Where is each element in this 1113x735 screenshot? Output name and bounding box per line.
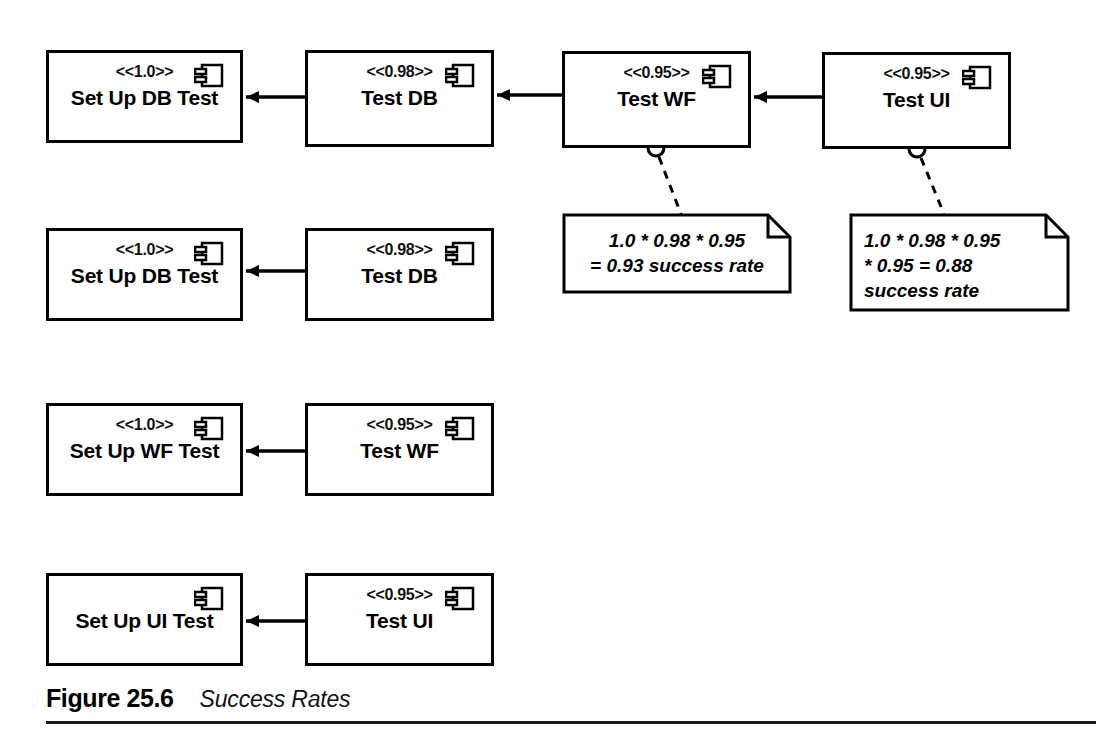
figure-title: Success Rates: [200, 686, 351, 712]
component-name: Set Up UI Test: [49, 609, 240, 633]
component-set-up-ui-test-row4[interactable]: Set Up UI Test: [46, 573, 243, 666]
component-name: Test DB: [308, 86, 491, 110]
uml-component-icon: [445, 241, 475, 267]
uml-component-icon: [445, 586, 475, 612]
note-link-dashed-ui: [921, 158, 944, 214]
figure-label: Figure 25.6: [46, 684, 174, 712]
note-text-wf: 1.0 * 0.98 * 0.95 = 0.93 success rate: [564, 228, 790, 278]
uml-component-icon: [194, 63, 224, 89]
component-name: Set Up DB Test: [49, 86, 240, 110]
uml-component-icon: [445, 416, 475, 442]
component-name: Test UI: [308, 609, 491, 633]
component-name: Test UI: [825, 88, 1008, 112]
component-set-up-wf-test-row3[interactable]: <<1.0>> Set Up WF Test: [46, 403, 243, 496]
component-name: Test WF: [565, 87, 748, 111]
uml-component-icon: [194, 241, 224, 267]
component-name: Set Up DB Test: [49, 264, 240, 288]
component-test-db-row1[interactable]: <<0.98>> Test DB: [305, 50, 494, 147]
component-test-ui-row1[interactable]: <<0.95>> Test UI: [822, 52, 1011, 149]
component-set-up-db-test-row2[interactable]: <<1.0>> Set Up DB Test: [46, 228, 243, 321]
component-name: Test WF: [308, 439, 491, 463]
uml-component-icon: [702, 64, 732, 90]
figure-caption: Figure 25.6Success Rates: [46, 684, 350, 713]
note-link-dashed-wf: [659, 157, 681, 214]
component-name: Test DB: [308, 264, 491, 288]
component-name: Set Up WF Test: [49, 439, 240, 463]
component-set-up-db-test-row1[interactable]: <<1.0>> Set Up DB Test: [46, 50, 243, 143]
component-test-db-row2[interactable]: <<0.98>> Test DB: [305, 228, 494, 321]
component-test-wf-row1[interactable]: <<0.95>> Test WF: [562, 51, 751, 148]
note-text-ui: 1.0 * 0.98 * 0.95 * 0.95 = 0.88 success …: [864, 228, 1064, 303]
uml-component-icon: [194, 586, 224, 612]
caption-divider: [46, 721, 1096, 724]
component-test-ui-row4[interactable]: <<0.95>> Test UI: [305, 573, 494, 666]
uml-component-icon: [962, 65, 992, 91]
component-test-wf-row3[interactable]: <<0.95>> Test WF: [305, 403, 494, 496]
uml-component-icon: [194, 416, 224, 442]
uml-component-icon: [445, 63, 475, 89]
